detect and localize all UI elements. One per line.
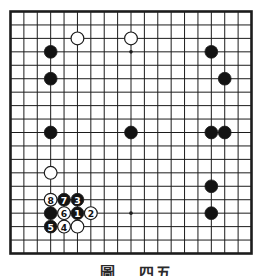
move-number-3: 3 [74,195,80,206]
caption-figure-label: 圖 [100,265,117,276]
black-stone [44,45,57,58]
go-board-diagram: 12345678 [0,0,258,266]
move-number-5: 5 [47,222,53,233]
black-stone [44,126,57,139]
black-stone [205,45,218,58]
move-number-2: 2 [88,208,94,219]
white-stone [44,166,57,179]
black-stone [205,180,218,193]
move-number-6: 6 [61,208,67,219]
black-stone [218,72,231,85]
diagram-caption: 圖 四五 [0,265,258,276]
black-stone [218,126,231,139]
white-stone [125,32,138,45]
black-stone [125,126,138,139]
black-stone [44,207,57,220]
white-stone [71,220,84,233]
star-point [129,50,133,54]
star-point [129,211,133,215]
black-stone [205,126,218,139]
black-stone [44,72,57,85]
white-stone [71,32,84,45]
move-number-7: 7 [61,195,67,206]
move-number-1: 1 [74,208,80,219]
black-stone [205,207,218,220]
move-number-4: 4 [61,222,67,233]
scanned-go-diagram-page: 12345678 圖 四五 [0,0,258,276]
caption-figure-number: 四五 [139,265,173,276]
move-number-8: 8 [47,195,53,206]
